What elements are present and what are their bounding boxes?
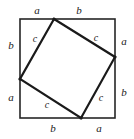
label-hyp-top-left-c: c [33,34,37,44]
diagram-canvas [0,0,134,139]
label-bottom-right-a: a [96,123,102,134]
label-hyp-bottom-left-c: c [45,100,49,110]
vertex-dot-bottom [79,116,82,119]
label-bottom-left-b: b [50,123,56,134]
label-top-right-b: b [76,5,82,16]
vertex-dot-left [18,77,21,80]
label-hyp-top-right-c: c [94,33,98,43]
label-left-bottom-a: a [8,92,14,103]
label-right-top-a: a [121,36,127,47]
label-right-bottom-b: b [121,87,127,98]
label-hyp-bottom-right-c: c [99,93,103,103]
label-top-left-a: a [34,5,40,16]
pythagorean-square-diagram: a b a b a b a b c c c c [0,0,134,139]
vertex-dot-top [52,17,55,20]
vertex-dot-right [113,55,116,58]
label-left-top-b: b [8,40,14,51]
